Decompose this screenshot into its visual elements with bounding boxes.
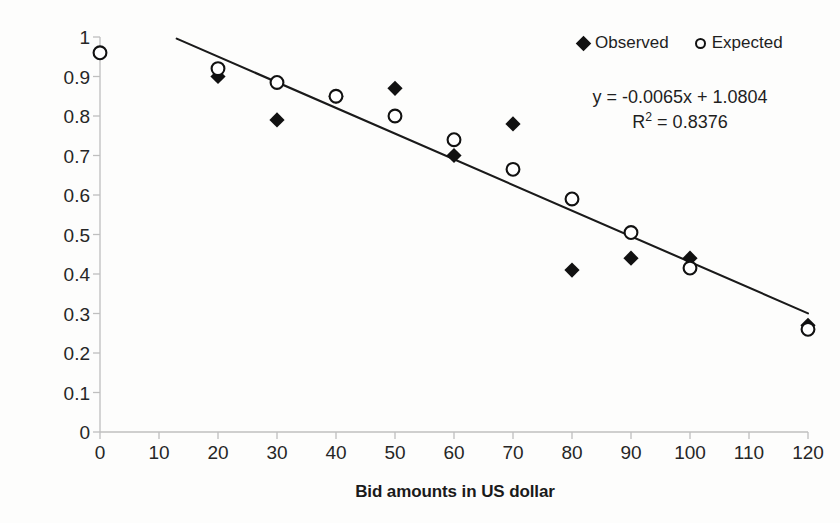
x-axis-title: Bid amounts in US dollar <box>100 482 810 502</box>
r-squared-value: R2 = 0.8376 <box>540 109 820 134</box>
diamond-marker-icon <box>576 35 592 51</box>
y-tick-label: 0.2 <box>44 344 90 363</box>
y-axis-tick-labels: 00.10.20.30.40.50.60.70.80.91 <box>40 37 90 432</box>
x-axis-tick-labels: 0102030405060708090100110120 <box>100 443 808 469</box>
y-tick-label: 0.5 <box>44 225 90 244</box>
x-tick-label: 20 <box>207 443 228 462</box>
data-point-observed <box>564 262 579 277</box>
x-tick-label: 100 <box>674 443 706 462</box>
trendline-equation: y = -0.0065x + 1.0804 <box>540 85 820 109</box>
y-tick-label: 0.6 <box>44 186 90 205</box>
x-tick-label: 80 <box>561 443 582 462</box>
data-point-expected <box>330 90 343 103</box>
y-tick-label: 0.9 <box>44 67 90 86</box>
x-tick-label: 110 <box>734 443 764 462</box>
y-tick-label: 0.8 <box>44 107 90 126</box>
x-tick-label: 120 <box>792 443 824 462</box>
x-tick-label: 50 <box>384 443 405 462</box>
data-point-expected <box>94 46 107 59</box>
legend-entry-expected[interactable]: Expected <box>695 33 783 53</box>
data-point-expected <box>566 193 579 206</box>
x-tick-label: 10 <box>148 443 169 462</box>
chart-legend: ObservedExpected <box>578 33 783 53</box>
x-tick-label: 40 <box>325 443 346 462</box>
data-point-expected <box>271 76 284 89</box>
scatter-chart: Proportion of visitors willing to pay 00… <box>0 0 840 523</box>
data-point-expected <box>684 262 697 275</box>
y-tick-label: 1 <box>44 28 90 47</box>
legend-label: Expected <box>712 33 783 53</box>
data-point-expected <box>212 62 225 75</box>
data-point-expected <box>507 163 520 176</box>
x-tick-label: 30 <box>266 443 287 462</box>
y-tick-label: 0.7 <box>44 146 90 165</box>
data-point-observed <box>387 81 402 96</box>
x-tick-label: 70 <box>502 443 523 462</box>
y-tick-label: 0.1 <box>44 383 90 402</box>
y-tick-label: 0.3 <box>44 304 90 323</box>
r-squared-number: = 0.8376 <box>652 112 728 132</box>
legend-entry-observed[interactable]: Observed <box>578 33 669 53</box>
trendline-annotation: y = -0.0065x + 1.0804 R2 = 0.8376 <box>540 85 820 135</box>
x-tick-label: 90 <box>620 443 641 462</box>
y-tick-label: 0 <box>44 423 90 442</box>
data-point-expected <box>448 133 461 146</box>
x-tick-label: 60 <box>443 443 464 462</box>
x-tick-label: 0 <box>95 443 106 462</box>
circle-marker-icon <box>695 38 706 49</box>
data-point-observed <box>269 112 284 127</box>
data-point-expected <box>802 323 815 336</box>
data-point-expected <box>625 226 638 239</box>
r-squared-label: R <box>632 112 645 132</box>
legend-label: Observed <box>595 33 669 53</box>
data-point-expected <box>389 110 402 123</box>
data-point-observed <box>623 251 638 266</box>
data-point-observed <box>505 116 520 131</box>
y-tick-label: 0.4 <box>44 265 90 284</box>
